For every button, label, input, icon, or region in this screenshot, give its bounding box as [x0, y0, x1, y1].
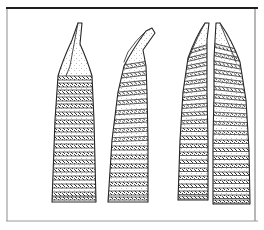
specimen-1	[50, 23, 100, 202]
illustration-plate	[0, 0, 264, 230]
specimen-4	[210, 23, 256, 204]
diatom-plate-drawing	[0, 0, 264, 230]
specimen-2	[104, 28, 156, 202]
specimen-3	[174, 23, 214, 200]
